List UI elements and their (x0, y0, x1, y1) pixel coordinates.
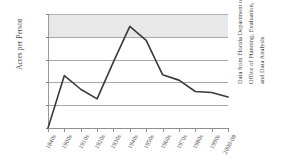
x-tick-label: 1840s (44, 133, 57, 150)
x-tick-mark (81, 128, 82, 132)
x-tick-mark (195, 128, 196, 132)
x-tick-label: 1920s (93, 133, 106, 150)
x-tick-mark (48, 128, 49, 132)
source-note: Data from Florida Department of Health, … (228, 14, 301, 150)
x-tick-label: 1940s (126, 133, 139, 150)
chart-figure: Acres per Person 00.51.01.52.02.5 Data f… (0, 0, 301, 164)
x-tick-label: 1970s (175, 133, 188, 150)
x-tick-label: 1930s (109, 133, 122, 150)
x-tick-label: 1950s (142, 133, 155, 150)
x-tick-mark (97, 128, 98, 132)
x-tick-label: 1960s (158, 133, 171, 150)
data-line (48, 26, 228, 128)
source-note-line-1: Data from Florida Department of Health, (236, 0, 243, 84)
x-tick-mark (179, 128, 180, 132)
x-tick-mark (228, 128, 229, 132)
x-axis-line (48, 128, 228, 129)
x-tick-label: 1990s (207, 133, 220, 150)
x-tick-mark (130, 128, 131, 132)
x-tick-mark (113, 128, 114, 132)
x-tick-label: 1980s (191, 133, 204, 150)
x-tick-mark (146, 128, 147, 132)
y-axis-title: Acres per Person (16, 0, 24, 89)
source-note-line-3: and Data Analysis (258, 0, 265, 84)
source-note-line-2: Office of Planning, Evaluation, (247, 0, 254, 84)
x-tick-label: 1900s (60, 133, 73, 150)
x-tick-mark (163, 128, 164, 132)
line-series (48, 14, 228, 128)
x-tick-mark (64, 128, 65, 132)
x-tick-label: 1910s (77, 133, 90, 150)
x-tick-mark (212, 128, 213, 132)
